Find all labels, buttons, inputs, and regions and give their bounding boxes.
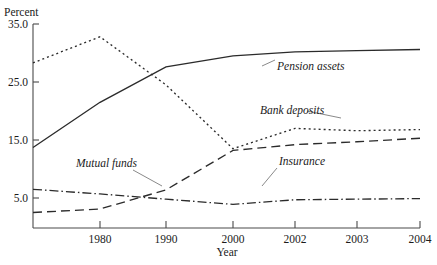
x-tick-label-1990: 1990 bbox=[155, 233, 178, 245]
y-tick-label-15: 15.0 bbox=[8, 134, 28, 146]
x-tick-label-2003: 2003 bbox=[346, 233, 369, 245]
leader-mutual-funds bbox=[133, 170, 162, 186]
x-tick-label-2000: 2000 bbox=[222, 233, 245, 245]
series-group bbox=[33, 37, 420, 213]
y-axis-title: Percent bbox=[4, 6, 39, 18]
chart-canvas: Percent Year 35.0 25.0 15.0 5.0 1980 199… bbox=[0, 0, 437, 265]
series-line-bank-deposits bbox=[33, 37, 420, 149]
series-line-insurance bbox=[33, 189, 420, 204]
x-tick-label-2004: 2004 bbox=[409, 233, 432, 245]
y-tick-label-25: 25.0 bbox=[8, 76, 28, 88]
series-label-bank-deposits: Bank deposits bbox=[260, 104, 325, 117]
x-tick-label-1980: 1980 bbox=[89, 233, 112, 245]
series-label-pension-assets: Pension assets bbox=[276, 60, 345, 72]
x-axis-title: Year bbox=[216, 246, 237, 258]
leader-insurance bbox=[262, 168, 277, 186]
line-chart: Percent Year 35.0 25.0 15.0 5.0 1980 199… bbox=[0, 0, 437, 265]
series-line-pension-assets bbox=[33, 50, 420, 148]
series-line-mutual-funds bbox=[33, 138, 420, 212]
series-label-mutual-funds: Mutual funds bbox=[75, 157, 138, 170]
leader-pension-assets bbox=[262, 60, 275, 66]
x-tick-label-2002: 2002 bbox=[284, 233, 307, 245]
series-label-insurance: Insurance bbox=[278, 155, 325, 167]
y-tick-label-5: 5.0 bbox=[14, 192, 29, 204]
y-tick-label-35: 35.0 bbox=[8, 18, 28, 30]
